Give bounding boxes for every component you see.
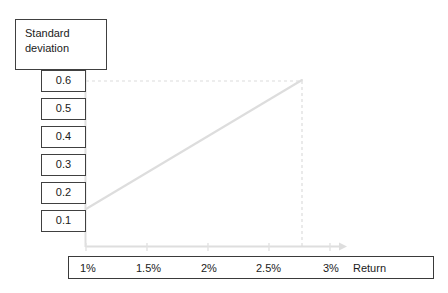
x-tick-label-1: 1.5% bbox=[136, 262, 161, 274]
y-tick-label: 0.2 bbox=[56, 186, 71, 200]
x-tick-label-3: 2.5% bbox=[256, 262, 281, 274]
y-axis-title: Standard deviation bbox=[25, 26, 70, 56]
y-tick-box-3: 0.3 bbox=[41, 154, 86, 176]
x-tick-label-0: 1% bbox=[80, 262, 96, 274]
x-axis-title: Return bbox=[353, 262, 386, 274]
y-tick-label: 0.4 bbox=[56, 130, 71, 144]
x-tick-label-2: 2% bbox=[201, 262, 217, 274]
y-tick-box-1: 0.5 bbox=[41, 98, 86, 120]
y-axis-title-box: Standard deviation bbox=[15, 19, 107, 70]
y-tick-box-2: 0.4 bbox=[41, 126, 86, 148]
y-tick-label: 0.6 bbox=[56, 74, 71, 88]
x-axis bbox=[86, 243, 348, 251]
frontier-line bbox=[86, 80, 302, 209]
x-axis-label-strip: 1% 1.5% 2% 2.5% 3% Return bbox=[68, 256, 434, 279]
x-tick-label-4: 3% bbox=[323, 262, 339, 274]
y-tick-label: 0.3 bbox=[56, 158, 71, 172]
chart-figure: Standard deviation 0.6 0.5 0.4 0.3 0.2 0… bbox=[0, 0, 448, 293]
y-tick-label: 0.1 bbox=[56, 214, 71, 228]
y-tick-label: 0.5 bbox=[56, 102, 71, 116]
y-tick-box-4: 0.2 bbox=[41, 182, 86, 204]
y-tick-box-5: 0.1 bbox=[41, 210, 86, 232]
y-tick-box-0: 0.6 bbox=[41, 70, 86, 92]
guide-lines bbox=[86, 81, 302, 247]
